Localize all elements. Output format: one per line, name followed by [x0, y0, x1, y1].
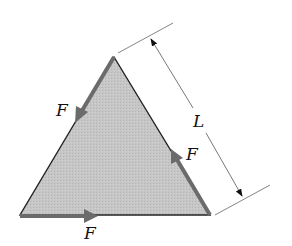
- extension-line-bottom: [215, 185, 270, 215]
- extension-line-top: [118, 23, 173, 53]
- triangle-plate: [20, 57, 210, 215]
- force-label-left: F: [55, 100, 69, 120]
- triangle-force-diagram: L F F F: [0, 0, 292, 246]
- length-label: L: [192, 111, 204, 131]
- force-label-right: F: [185, 144, 199, 164]
- force-label-bottom: F: [83, 223, 97, 243]
